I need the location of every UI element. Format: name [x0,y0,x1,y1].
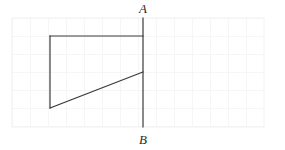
vertex-label-b: B [139,132,147,147]
figure-canvas: A B [0,0,285,150]
vertex-label-a: A [138,1,147,16]
geometry-figure: A B [0,0,285,150]
